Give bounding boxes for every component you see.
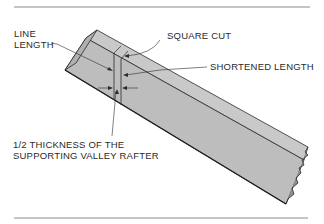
line-length-label-line2: LENGTH	[14, 39, 54, 50]
shortened-length-label: SHORTENED LENGTH	[210, 61, 314, 72]
line-length-label: LINE LENGTH	[14, 28, 54, 50]
diagram-figure: LINE LENGTH SQUARE CUT SHORTENED LENGTH …	[0, 0, 324, 224]
half-thickness-label-line1: 1/2 THICKNESS OF THE	[13, 139, 159, 150]
half-thickness-label-line2: SUPPORTING VALLEY RAFTER	[13, 150, 159, 161]
line-length-label-line1: LINE	[14, 28, 54, 39]
half-thickness-label: 1/2 THICKNESS OF THE SUPPORTING VALLEY R…	[13, 139, 159, 161]
square-cut-label: SQUARE CUT	[167, 30, 231, 41]
